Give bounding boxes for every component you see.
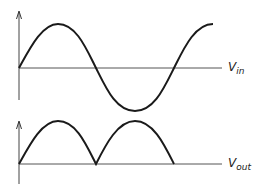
bottom-plot <box>17 121 223 184</box>
waveform-diagram <box>0 0 261 185</box>
top-plot <box>17 11 223 111</box>
vout-label: Vout <box>228 157 251 172</box>
vin-label: Vin <box>228 61 244 76</box>
vout-rectified-curve <box>19 121 174 164</box>
